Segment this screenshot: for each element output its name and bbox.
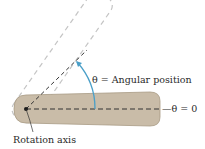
rotation-diagram: θ = Angular position —θ = 0 Rotation axi… <box>0 0 205 149</box>
zero-angle-label: —θ = 0 <box>162 103 197 114</box>
angular-position-label: θ = Angular position <box>92 74 192 85</box>
rotation-axis-label: Rotation axis <box>13 134 76 145</box>
zero-angle-text: θ = 0 <box>172 103 198 114</box>
zero-angle-dash: — <box>162 103 172 114</box>
